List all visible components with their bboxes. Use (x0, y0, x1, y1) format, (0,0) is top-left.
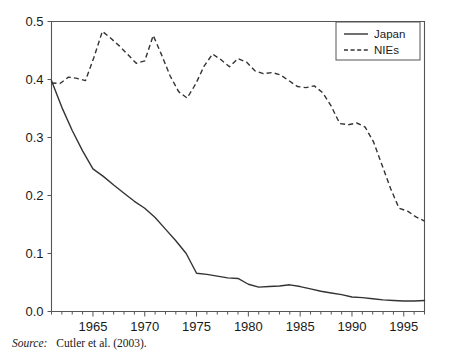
y-tick-label: 0.4 (25, 72, 43, 87)
y-axis-tick-labels: 0.00.10.20.30.40.5 (25, 14, 43, 319)
source-text: Cutler et al. (2003). (56, 337, 146, 349)
y-tick-label: 0.2 (25, 188, 43, 203)
x-tick-label: 1980 (234, 319, 263, 334)
y-tick-label: 0.1 (25, 246, 43, 261)
x-axis-ticks-major (93, 312, 404, 317)
x-tick-label: 1995 (389, 319, 418, 334)
x-tick-label: 1965 (78, 319, 107, 334)
chart-legend: Japan NIEs (336, 22, 420, 60)
y-tick-label: 0.3 (25, 130, 43, 145)
source-note: Source:Cutler et al. (2003). (12, 337, 147, 349)
x-axis-tick-labels: 1965197019751980198519901995 (78, 319, 418, 334)
y-tick-label: 0.0 (25, 304, 43, 319)
plot-frame (52, 22, 425, 312)
source-label: Source: (12, 337, 47, 349)
y-axis-ticks (48, 22, 52, 312)
series-line-japan (52, 81, 425, 301)
x-tick-label: 1970 (130, 319, 159, 334)
line-chart: 0.00.10.20.30.40.5 196519701975198019851… (0, 0, 449, 360)
data-series-group (52, 31, 425, 301)
y-tick-label: 0.5 (25, 14, 43, 29)
x-tick-label: 1985 (286, 319, 315, 334)
x-tick-label: 1990 (338, 319, 367, 334)
x-tick-label: 1975 (182, 319, 211, 334)
legend-label-nies: NIEs (374, 44, 399, 56)
legend-label-japan: Japan (374, 28, 405, 40)
figure-container: 0.00.10.20.30.40.5 196519701975198019851… (0, 0, 449, 360)
